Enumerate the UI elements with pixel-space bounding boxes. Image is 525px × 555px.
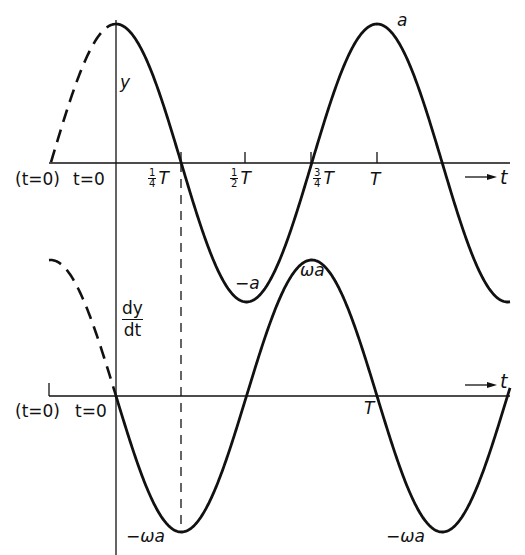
y-axis-label: y: [120, 74, 130, 91]
t-axis-label-bottom: t: [500, 372, 507, 391]
t0-label-top: t=0: [73, 171, 105, 188]
period-label-T: T: [364, 400, 374, 417]
tick-label-half-T: 12T: [230, 168, 251, 189]
min-label-neg-omega-a-right: −ωa: [386, 528, 425, 545]
tick-label-three-quarter-T: 34T: [313, 168, 334, 189]
oscillation-diagram: y (t=0) t=0 14T 12T 34T T t a −a dydt (t…: [0, 0, 525, 555]
max-label-omega-a: ωa: [300, 262, 325, 279]
t0-alt-label-top: (t=0): [15, 171, 60, 188]
dydt-curve-dashed: [49, 260, 116, 396]
arrowhead-icon: [487, 382, 497, 388]
min-label-neg-omega-a-left: −ωa: [126, 528, 165, 545]
y-curve-dashed: [51, 24, 116, 162]
t0-alt-label-bottom: (t=0): [15, 403, 60, 420]
min-label-neg-a: −a: [235, 275, 260, 292]
tick-label-quarter-T: 14T: [148, 168, 169, 189]
tick-label-T: T: [370, 171, 380, 188]
arrowhead-icon: [487, 174, 497, 180]
t0-label-bottom: t=0: [75, 403, 107, 420]
t-axis-label-top: t: [500, 168, 507, 187]
dydt-axis-label: dydt: [122, 300, 143, 339]
max-label-a: a: [397, 12, 407, 29]
plot-canvas: [0, 0, 525, 555]
